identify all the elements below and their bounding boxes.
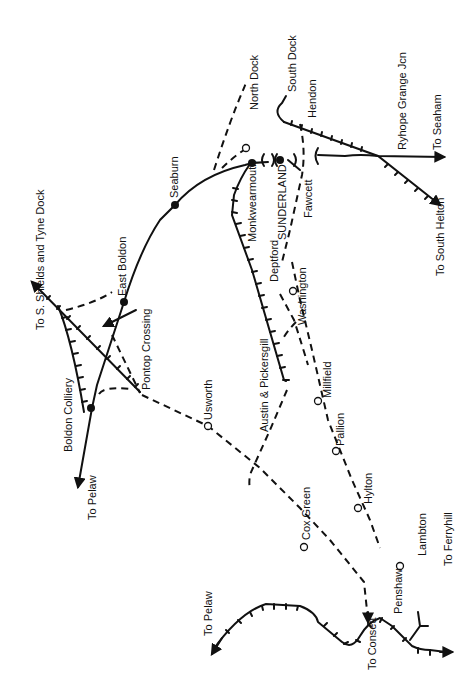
buffer-stop-5 <box>316 148 319 164</box>
label-washington: Cox Green <box>300 487 312 540</box>
label-sunderland: SUNDERLAND <box>276 164 288 240</box>
closed-line-pontop-loop <box>99 388 130 394</box>
closed-line-millfield-link <box>282 322 296 340</box>
station-north-dock-stop[interactable] <box>243 145 250 152</box>
station-hylton[interactable] <box>333 448 340 455</box>
label-boldon-colliery: Boldon Colliery <box>62 378 74 452</box>
label-lambton: Lambton <box>416 513 428 556</box>
label-millfield: Washington <box>296 267 308 325</box>
label-east-boldon: East Boldon <box>116 237 128 296</box>
label-to-seaham: To Seaham <box>431 94 443 150</box>
label-to-pelaw-north: To Pelaw <box>86 475 98 520</box>
station-seaburn[interactable] <box>171 201 179 209</box>
label-to-s-shields: To S. Shields and Tyne Dock <box>34 189 46 330</box>
station-penshaw[interactable] <box>397 563 404 570</box>
label-to-pelaw-south: To Pelaw <box>202 591 214 636</box>
buffer-stop-4 <box>294 154 296 166</box>
label-penshaw: Penshaw <box>392 569 404 614</box>
label-seaburn: Seaburn <box>168 156 180 198</box>
south-dock-curve <box>277 96 286 122</box>
buffer-stop-1 <box>262 154 264 166</box>
label-cox-green: Hylton <box>362 473 374 504</box>
label-to-south-helton: To South Helton <box>434 198 446 276</box>
label-hendon: Hendon <box>306 79 318 118</box>
station-east-boldon[interactable] <box>120 298 128 306</box>
to-pelaw-arrow <box>212 638 222 654</box>
label-hylton: Pallion <box>334 413 346 446</box>
railway-map: To S. Shields and Tyne Dock To Pelaw Bol… <box>0 0 472 676</box>
label-north-dock: North Dock <box>248 54 260 110</box>
station-sunderland[interactable] <box>276 156 284 164</box>
label-usworth: Usworth <box>202 380 214 420</box>
lambton-branch <box>410 612 428 640</box>
label-south-dock: South Dock <box>286 35 298 92</box>
label-fawcett: Fawcett <box>302 179 314 218</box>
station-washington[interactable] <box>301 544 308 551</box>
label-pontop-crossing: Pontop Crossing <box>140 309 152 390</box>
station-usworth[interactable] <box>205 423 212 430</box>
label-monkwearmouth: Monkwearmouth <box>246 161 258 242</box>
label-to-ferryhill: To Ferryhill <box>442 512 454 566</box>
sunderland-south-line <box>318 155 444 157</box>
label-austin-pickersgill: Austin & Pickersgill <box>258 338 270 432</box>
label-pallion: Millfield <box>321 361 333 398</box>
station-boldon-colliery[interactable] <box>87 404 95 412</box>
station-cox-green[interactable] <box>355 505 362 512</box>
north-dock-branch <box>214 80 247 170</box>
leamside-mineral-line <box>213 604 446 652</box>
label-ryhope-grange: Ryhope Grange Jcn <box>396 52 408 150</box>
buffer-stop-2 <box>272 154 274 166</box>
label-deptford: Deptford <box>268 240 280 282</box>
label-to-consett: To Consett <box>366 617 378 670</box>
closed-line-pontop-east <box>112 335 140 393</box>
closed-line-boldon-east <box>66 292 112 310</box>
